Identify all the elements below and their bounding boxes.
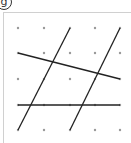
slanted-line [18, 53, 120, 79]
grid-dot [69, 52, 71, 54]
grid-dot [17, 27, 19, 29]
grid-dot [43, 129, 45, 131]
steep-line-left [18, 28, 70, 130]
grid-dot [43, 52, 45, 54]
grid-dot [119, 129, 121, 131]
steep-line-right [70, 28, 120, 130]
grid-dot [43, 27, 45, 29]
grid-dot [94, 52, 96, 54]
grid-dot [94, 129, 96, 131]
grid-dot [119, 52, 121, 54]
grid-dot [94, 27, 96, 29]
grid-dot [17, 78, 19, 80]
grid-dot [69, 78, 71, 80]
dot-grid-diagram [0, 0, 131, 143]
